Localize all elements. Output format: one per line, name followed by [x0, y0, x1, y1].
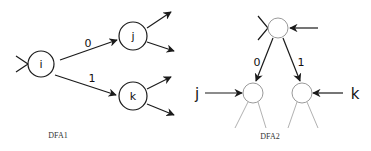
dfa2-caption: DFA2 [260, 132, 279, 141]
dfa1-start-marker [16, 56, 28, 72]
dfa2-edge-root-left-label: 0 [254, 56, 261, 69]
dfa2-subtree-lines [235, 102, 318, 128]
dfa1-edge-i-k [55, 75, 116, 95]
dfa1-state-k: k [119, 82, 147, 110]
diagram-canvas: i j k 0 1 DFA1 [0, 0, 371, 151]
dfa2-input-k-label: k [351, 85, 360, 103]
dfa1-state-k-label: k [130, 90, 137, 103]
dfa1-j-out-upper [147, 12, 171, 28]
dfa2-diagram: 0 1 j k DFA2 [194, 16, 360, 141]
dfa2-start-marker [258, 16, 268, 40]
dfa1-state-i-label: i [39, 58, 42, 71]
dfa1-k-out-lower [147, 104, 174, 115]
dfa2-state-right [292, 83, 312, 103]
dfa2-input-j-label: j [194, 85, 199, 103]
dfa1-state-j: j [119, 22, 147, 50]
dfa1-diagram: i j k 0 1 DFA1 [16, 12, 174, 140]
dfa1-edge-i-j-label: 0 [85, 37, 92, 50]
dfa2-state-root [268, 18, 288, 38]
dfa1-j-out-lower [147, 42, 174, 51]
dfa1-state-i: i [28, 51, 54, 77]
dfa2-edge-root-right-label: 1 [298, 56, 305, 69]
dfa2-state-left [243, 83, 263, 103]
dfa1-edge-i-k-label: 1 [89, 72, 96, 85]
dfa1-k-out-upper [147, 77, 171, 89]
dfa1-state-j-label: j [130, 30, 134, 43]
dfa1-caption: DFA1 [48, 131, 67, 140]
